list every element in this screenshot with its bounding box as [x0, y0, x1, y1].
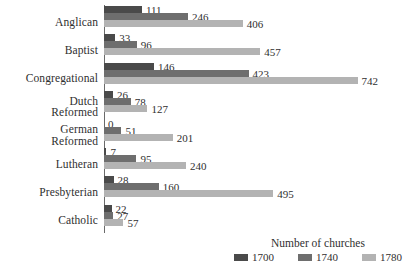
bar-value-label: 201	[177, 133, 194, 144]
bar-1700	[104, 91, 113, 98]
category-label: Baptist	[0, 45, 98, 57]
legend-swatch-icon	[234, 254, 248, 261]
category-label: German Reformed	[0, 124, 98, 147]
bar-1700	[104, 148, 106, 155]
bar-1780	[104, 162, 186, 169]
category-label: Dutch Reformed	[0, 96, 98, 119]
bar-1740	[104, 98, 131, 105]
bar-1700	[104, 6, 142, 13]
bar-value-label: 457	[264, 47, 281, 58]
grouped-bar-chart: Anglican111246406Baptist3396457Congregat…	[0, 0, 409, 275]
legend-title: Number of churches	[232, 236, 404, 250]
bar-1780	[104, 20, 243, 27]
bar-1780	[104, 219, 123, 226]
plot-area: Anglican111246406Baptist3396457Congregat…	[0, 0, 409, 240]
legend-label: 1780	[380, 252, 402, 263]
bar-value-label: 57	[127, 218, 138, 229]
category-label: Anglican	[0, 17, 98, 29]
bar-1740	[104, 183, 159, 190]
bar-1740	[104, 70, 249, 77]
category-label: Catholic	[0, 215, 98, 227]
legend-label: 1700	[252, 252, 274, 263]
bar-1700	[104, 205, 112, 212]
legend-item-1780[interactable]: 1780	[362, 252, 402, 263]
bar-1700	[104, 63, 154, 70]
bar-1740	[104, 127, 121, 134]
bar-1780	[104, 77, 358, 84]
category-label: Presbyterian	[0, 187, 98, 199]
bar-1700	[104, 34, 115, 41]
bar-1780	[104, 190, 273, 197]
legend-label: 1740	[316, 252, 338, 263]
bar-value-label: 240	[190, 161, 207, 172]
bar-1780	[104, 105, 147, 112]
bar-value-label: 742	[362, 76, 379, 87]
bar-1740	[104, 155, 136, 162]
bar-1780	[104, 134, 173, 141]
legend-swatch-icon	[362, 254, 376, 261]
legend-item-1700[interactable]: 1700	[234, 252, 274, 263]
bar-value-label: 127	[151, 104, 168, 115]
category-label: Congregational	[0, 73, 98, 85]
bar-1700	[104, 176, 114, 183]
chart-legend: Number of churches 170017401780	[232, 236, 404, 263]
legend-item-1740[interactable]: 1740	[298, 252, 338, 263]
bar-1780	[104, 48, 260, 55]
legend-items: 170017401780	[232, 252, 404, 263]
category-label: Lutheran	[0, 159, 98, 171]
legend-swatch-icon	[298, 254, 312, 261]
bar-1740	[104, 13, 188, 20]
bar-value-label: 495	[277, 189, 294, 200]
bar-1740	[104, 41, 137, 48]
bar-1740	[104, 212, 113, 219]
bar-value-label: 406	[247, 19, 264, 30]
